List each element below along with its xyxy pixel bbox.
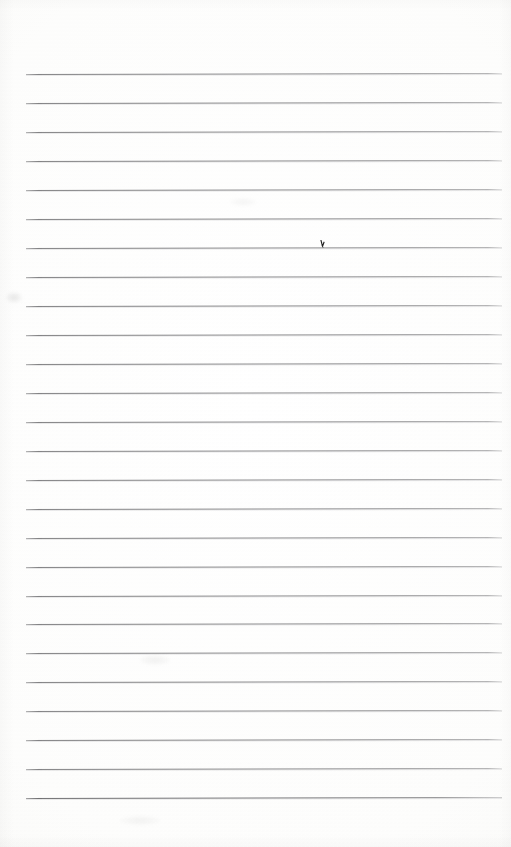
rule-line bbox=[26, 768, 502, 770]
rule-line bbox=[26, 334, 502, 336]
rule-line bbox=[26, 160, 502, 162]
rule-line bbox=[26, 537, 502, 539]
rule-line bbox=[26, 508, 502, 510]
rule-line bbox=[26, 623, 502, 625]
scanned-page bbox=[0, 0, 511, 847]
rule-line bbox=[26, 218, 502, 220]
rule-line bbox=[26, 392, 502, 394]
rule-line bbox=[26, 566, 502, 568]
rule-line-group bbox=[0, 0, 511, 847]
rule-line bbox=[26, 276, 502, 278]
rule-line bbox=[26, 479, 502, 481]
rule-line bbox=[26, 797, 502, 799]
rule-line bbox=[26, 102, 502, 104]
rule-line bbox=[26, 247, 502, 249]
rule-line bbox=[26, 421, 502, 423]
rule-line bbox=[26, 739, 502, 741]
rule-line bbox=[26, 681, 502, 683]
rule-line bbox=[26, 710, 502, 712]
rule-line bbox=[26, 595, 502, 597]
rule-line bbox=[26, 305, 502, 307]
rule-line bbox=[26, 189, 502, 191]
rule-line bbox=[26, 363, 502, 365]
rule-line bbox=[26, 652, 502, 654]
rule-line bbox=[26, 131, 502, 133]
rule-line bbox=[26, 450, 502, 452]
rule-line bbox=[26, 73, 502, 75]
